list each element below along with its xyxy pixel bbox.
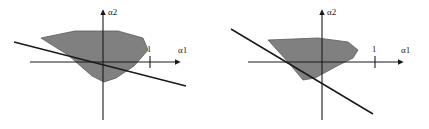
- figure-container: 1 α1 α2 1: [0, 0, 429, 129]
- left-panel: 1 α1 α2: [0, 0, 215, 129]
- right-panel: 1 α1 α2: [215, 0, 429, 129]
- x-axis-label: α1: [401, 45, 410, 55]
- x-axis-label: α1: [178, 45, 187, 55]
- feasible-region: [41, 31, 148, 82]
- x-tick-label: 1: [147, 44, 151, 54]
- x-tick-label: 1: [372, 44, 376, 54]
- y-axis-label: α2: [327, 7, 336, 17]
- y-axis-label: α2: [108, 7, 117, 17]
